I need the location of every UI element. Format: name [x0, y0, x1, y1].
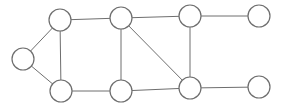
edge-D-G [121, 18, 190, 88]
node-B [49, 9, 71, 31]
node-F [179, 5, 201, 27]
graph-diagram [0, 0, 285, 106]
node-C [50, 80, 72, 102]
node-G [179, 77, 201, 99]
node-A [12, 48, 34, 70]
node-E [110, 80, 132, 102]
node-H [248, 5, 270, 27]
node-I [248, 76, 270, 98]
node-D [110, 7, 132, 29]
